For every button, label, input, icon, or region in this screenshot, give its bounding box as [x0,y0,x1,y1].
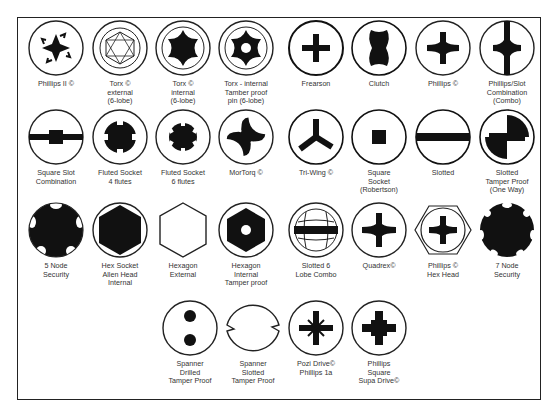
item-7-node: 7 Node Security [471,200,543,279]
quadrex-icon [349,200,409,260]
label: Slotted Tamper Proof (One Way) [471,169,543,195]
item-torx-tamper: Torx - internal Tamber proof pin (6-lobe… [210,18,282,106]
item-phillips-slot: Phillips/Slot Combination (Combo) [471,18,543,106]
fluted-4-icon [90,107,150,167]
square-slot-icon [26,107,86,167]
item-slotted: Slotted [407,107,479,178]
item-mortorq: MorTorq © [210,107,282,178]
label: Fluted Socket 4 flutes [84,169,156,186]
label: Quadrex© [343,262,415,271]
hexagon-external-icon [153,200,213,260]
torx-internal-icon [153,18,213,78]
label: Phillips © [407,80,479,89]
item-frearson: Frearson [280,18,352,89]
5-node-icon [26,200,86,260]
7-node-icon [477,200,537,260]
item-phillips-ii: Phillips II © [20,18,92,89]
phillips-icon [413,18,473,78]
label: Slotted 6 Lobe Combo [280,262,352,279]
slotted-icon [413,107,473,167]
label: Torx © external (6-lobe) [84,80,156,106]
label: 7 Node Security [471,262,543,279]
torx-external-icon [90,18,150,78]
label: Tri-Wing © [280,169,352,178]
item-phillips-hex: Phillips © Hex Head [407,200,479,279]
hex-socket-icon [90,200,150,260]
item-fluted-4: Fluted Socket 4 flutes [84,107,156,186]
label: Frearson [280,80,352,89]
label: Clutch [343,80,415,89]
phillips-ii-icon [26,18,86,78]
label: Hex Socket Allen Head Internal [84,262,156,288]
item-spanner-drilled: Spanner Drilled Tamper Proof [154,298,226,386]
label: Phillips © Hex Head [407,262,479,279]
item-5-node: 5 Node Security [20,200,92,279]
item-torx-external: Torx © external (6-lobe) [84,18,156,106]
phillips-slot-icon [477,18,537,78]
label: Square Socket (Robertson) [343,169,415,195]
slotted-6-lobe-icon [286,200,346,260]
item-slotted-6-lobe: Slotted 6 Lobe Combo [280,200,352,279]
pozi-drive-icon [286,298,346,358]
label: Pozi Drive© Phillips 1a [280,360,352,377]
phillips-square-icon [349,298,409,358]
item-fluted-6: Fluted Socket 6 flutes [147,107,219,186]
tri-wing-icon [286,107,346,167]
label: Spanner Slotted Tamper Proof [217,360,289,386]
label: Slotted [407,169,479,178]
fluted-6-icon [153,107,213,167]
label: MorTorq © [210,169,282,178]
spanner-drilled-icon [160,298,220,358]
item-spanner-slotted: Spanner Slotted Tamper Proof [217,298,289,386]
label: Phillips/Slot Combination (Combo) [471,80,543,106]
label: Torx © internal (6-lobe) [147,80,219,106]
label: Square Slot Combination [20,169,92,186]
slotted-tamper-icon [477,107,537,167]
phillips-hex-icon [413,200,473,260]
mortorq-icon [216,107,276,167]
label: Torx - internal Tamber proof pin (6-lobe… [210,80,282,106]
hexagon-internal-tamper-icon [216,200,276,260]
label: Phillips Square Supa Drive© [343,360,415,386]
label: 5 Node Security [20,262,92,279]
item-tri-wing: Tri-Wing © [280,107,352,178]
label: Hexagon Internal Tamper proof [210,262,282,288]
item-square-slot: Square Slot Combination [20,107,92,186]
label: Spanner Drilled Tamper Proof [154,360,226,386]
spanner-slotted-icon [223,298,283,358]
item-square-socket: Square Socket (Robertson) [343,107,415,195]
item-pozi-drive: Pozi Drive© Phillips 1a [280,298,352,377]
label: Hexagon External [147,262,219,279]
item-torx-internal: Torx © internal (6-lobe) [147,18,219,106]
item-clutch: Clutch [343,18,415,89]
square-socket-icon [349,107,409,167]
item-hexagon-external: Hexagon External [147,200,219,279]
label: Phillips II © [20,80,92,89]
item-slotted-tamper: Slotted Tamper Proof (One Way) [471,107,543,195]
label: Fluted Socket 6 flutes [147,169,219,186]
torx-tamper-icon [216,18,276,78]
item-hexagon-internal-tamper: Hexagon Internal Tamper proof [210,200,282,288]
item-quadrex: Quadrex© [343,200,415,271]
item-hex-socket: Hex Socket Allen Head Internal [84,200,156,288]
clutch-icon [349,18,409,78]
item-phillips: Phillips © [407,18,479,89]
frearson-icon [286,18,346,78]
item-phillips-square: Phillips Square Supa Drive© [343,298,415,386]
